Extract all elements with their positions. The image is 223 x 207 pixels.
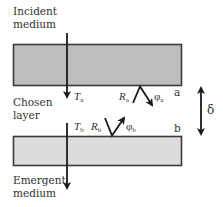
thickness-delta-label: δ	[207, 104, 214, 117]
symbol-Ra: Ra	[119, 90, 129, 104]
symbol-Rb: Rb	[91, 120, 101, 134]
symbol-Ta: Ta	[74, 90, 83, 104]
lower-layer	[14, 137, 182, 166]
symbol-phi-b: φb	[126, 120, 136, 134]
incident-line-1: Incident	[13, 5, 57, 18]
interface-a-label: a	[174, 86, 180, 99]
emergent-line-2: medium	[13, 187, 66, 200]
incident-medium-label: Incident medium	[13, 5, 57, 31]
emergent-line-1: Emergent	[13, 174, 66, 187]
interface-b-label: b	[174, 122, 181, 135]
symbol-phi-a: φa	[154, 90, 163, 104]
chosen-layer-label: Chosen layer	[13, 96, 52, 122]
incident-line-2: medium	[13, 18, 57, 31]
upper-layer	[14, 45, 182, 86]
reflection-arrow-b	[105, 118, 124, 136]
chosen-line-2: layer	[13, 109, 52, 122]
chosen-line-1: Chosen	[13, 96, 52, 109]
symbol-Tb: Tb	[74, 120, 84, 134]
reflection-arrow-a	[133, 87, 152, 106]
emergent-medium-label: Emergent medium	[13, 174, 66, 200]
